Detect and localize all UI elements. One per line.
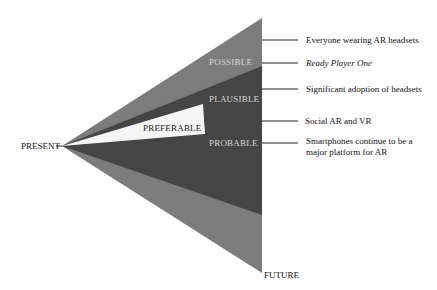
probable-label: PROBABLE [209,138,258,148]
present-label: PRESENT [21,141,60,152]
annotation-smartphones-line2: major platform for AR [306,147,387,158]
annotation-smartphones-line1: Smartphones continue to be a [306,136,412,147]
annotation-social-ar-vr: Social AR and VR [305,116,372,127]
annotation-everyone-ar: Everyone wearing AR headsets [306,35,419,46]
possible-label: POSSIBLE [209,57,252,67]
preferable-label: PREFERABLE [143,123,202,133]
annotation-ready-player-one: Ready Player One [306,58,372,69]
future-label: FUTURE [264,270,299,281]
plausible-label: PLAUSIBLE [209,94,259,104]
annotation-headset-adoption: Significant adoption of headsets [306,84,422,95]
annotation-leader-lines [262,40,298,143]
